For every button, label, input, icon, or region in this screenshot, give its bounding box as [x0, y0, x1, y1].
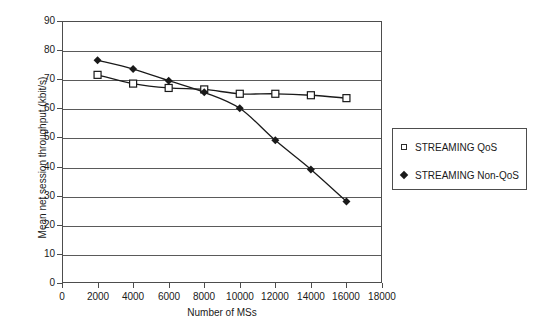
data-point-diamond: [129, 65, 137, 73]
x-tick-mark: [346, 283, 347, 288]
open-square-icon: [393, 144, 415, 150]
y-axis-title: Mean net session throughput (kbit/s): [37, 33, 48, 283]
data-point-square: [130, 80, 137, 87]
x-tick-label: 18000: [352, 291, 412, 302]
data-point-square: [343, 95, 350, 102]
chart-legend: STREAMING QoS STREAMING Non-QoS: [392, 128, 527, 190]
legend-entry-streaming-qos: STREAMING QoS: [393, 140, 526, 154]
data-point-diamond: [165, 77, 173, 85]
data-point-diamond: [94, 56, 102, 64]
legend-entry-streaming-non-qos: STREAMING Non-QoS: [393, 168, 526, 182]
y-tick-label: 40: [15, 162, 55, 172]
data-point-square: [272, 90, 279, 97]
x-tick-mark: [240, 283, 241, 288]
x-tick-mark: [98, 283, 99, 288]
data-point-square: [236, 90, 243, 97]
y-tick-label: 20: [15, 220, 55, 230]
x-tick-mark: [204, 283, 205, 288]
y-tick-label: 90: [15, 16, 55, 26]
legend-label: STREAMING QoS: [415, 142, 497, 153]
data-series-layer: [62, 21, 382, 283]
y-tick-label: 50: [15, 132, 55, 142]
chart-figure: Mean net session throughput (kbit/s) 010…: [0, 0, 534, 336]
series-streaming-non-qos: [94, 56, 351, 205]
y-tick-label: 60: [15, 103, 55, 113]
y-tick-label: 30: [15, 191, 55, 201]
x-tick-mark: [133, 283, 134, 288]
x-tick-mark: [62, 283, 63, 288]
legend-label: STREAMING Non-QoS: [415, 170, 519, 181]
data-point-square: [165, 84, 172, 91]
y-tick-label: 80: [15, 45, 55, 55]
x-tick-mark: [275, 283, 276, 288]
x-tick-mark: [311, 283, 312, 288]
series-streaming-qos: [94, 71, 350, 101]
y-tick-label: 70: [15, 74, 55, 84]
data-point-square: [94, 71, 101, 78]
x-tick-mark: [382, 283, 383, 288]
y-tick-label: 0: [15, 278, 55, 288]
filled-diamond-icon: [393, 172, 415, 178]
data-point-square: [307, 92, 314, 99]
y-tick-label: 10: [15, 249, 55, 259]
x-axis-title: Number of MSs: [62, 307, 382, 318]
x-tick-mark: [169, 283, 170, 288]
x-tick: 18000: [352, 291, 412, 302]
